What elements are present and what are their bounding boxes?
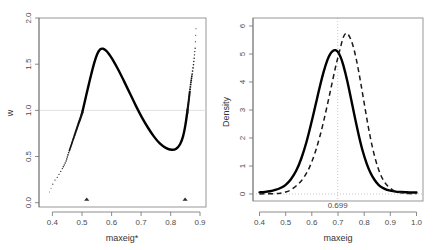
right-ytick-2: 2 [238,135,247,140]
left-curve-dot [193,64,195,66]
right-ytick-5: 5 [238,51,247,56]
left-curve-dot [195,41,196,42]
left-xtick-2: 0.6 [106,218,118,227]
left-curve-dot [194,51,195,52]
left-plot-box [39,18,206,207]
right-xtick-3: 0.7 [332,218,344,227]
left-x-axis [52,212,200,216]
left-curve-dot [49,192,50,193]
left-curve-dot [67,156,69,158]
left-ytick-4: 2.0 [24,12,33,24]
left-curve-dot [190,81,192,83]
left-curve-dot [66,158,68,160]
left-ytick-3: 1.5 [24,58,33,70]
right-ytick-6: 6 [238,23,247,28]
left-curve-dot [194,48,195,49]
right-xtick-4: 0.8 [359,218,371,227]
left-rug-markers [84,198,188,201]
left-curve-dot [81,111,83,113]
left-x-axis-title: maxeig* [106,233,139,243]
left-curve-dot [190,79,192,81]
left-plot-panel: 0.0 0.5 1.0 1.5 2.0 w 0.4 0.5 0.6 [0,0,218,250]
right-annotation-0699: 0.699 [328,201,349,210]
right-x-axis [260,212,417,216]
right-ytick-4: 4 [238,79,247,84]
left-rug-triangle [84,198,89,201]
left-curve-dot [58,174,59,175]
left-curve-dot [192,70,194,72]
left-y-axis [35,18,39,207]
left-curve-dot [68,152,70,154]
right-plot-panel: 0 1 2 3 4 5 6 Density 0.4 [218,0,435,250]
right-ytick-0: 0 [238,191,247,196]
left-y-tick-labels: 0.0 0.5 1.0 1.5 2.0 [24,12,33,208]
left-curve-dot [193,57,194,58]
left-x-tick-labels: 0.4 0.5 0.6 0.7 0.8 0.9 [47,218,206,227]
left-curve-dot [63,166,64,167]
left-curve-dot [189,90,191,92]
right-plot-svg: 0 1 2 3 4 5 6 Density 0.4 [218,0,435,250]
left-curve-dot [62,168,63,169]
right-xtick-2: 0.6 [306,218,318,227]
left-curve-dot [60,171,61,172]
left-plot-svg: 0.0 0.5 1.0 1.5 2.0 w 0.4 0.5 0.6 [0,0,218,250]
left-curve-dot [190,84,192,86]
right-xtick-1: 0.5 [280,218,292,227]
right-y-axis [249,18,253,201]
left-curve-dot [67,154,69,156]
figure-container: 0.0 0.5 1.0 1.5 2.0 w 0.4 0.5 0.6 [0,0,435,250]
right-x-tick-labels: 0.4 0.5 0.6 0.7 0.8 0.9 1.0 [254,218,423,227]
left-curve-dot [189,88,191,90]
left-ytick-2: 1.0 [24,104,33,116]
right-y-tick-labels: 0 1 2 3 4 5 6 [238,23,247,196]
left-xtick-3: 0.7 [136,218,148,227]
left-curve-dot [57,177,58,178]
left-curve-dot [193,61,195,63]
left-ytick-0: 0.0 [24,197,33,209]
left-rug-triangle [183,198,188,201]
left-curve-dot [64,162,65,163]
left-curve-dot [195,35,196,36]
left-ytick-1: 0.5 [24,150,33,162]
left-y-axis-title: w [5,109,15,117]
right-ytick-1: 1 [238,163,247,168]
left-xtick-5: 0.9 [194,218,206,227]
left-curve-dot [191,73,193,75]
right-ytick-3: 3 [238,107,247,112]
left-xtick-1: 0.5 [76,218,88,227]
right-xtick-5: 0.9 [385,218,397,227]
left-curve-dot [191,75,193,77]
left-xtick-4: 0.8 [165,218,177,227]
left-curve-dot [52,184,53,185]
left-curve-solid [82,49,187,150]
left-curve-dot [189,86,191,88]
left-xtick-0: 0.4 [47,218,59,227]
right-x-axis-title: maxeig [323,233,352,243]
left-curve-dot [54,179,55,180]
left-curve-dot [191,77,193,79]
left-curve-dot [65,160,67,162]
left-curve-dot [194,54,195,55]
right-xtick-6: 1.0 [411,218,423,227]
left-curve-dot [192,67,194,69]
right-y-axis-title: Density [221,96,231,127]
right-xtick-0: 0.4 [254,218,266,227]
left-curve-dot [64,164,65,165]
left-curve-dot [51,188,52,189]
left-curve-dot [195,28,196,29]
